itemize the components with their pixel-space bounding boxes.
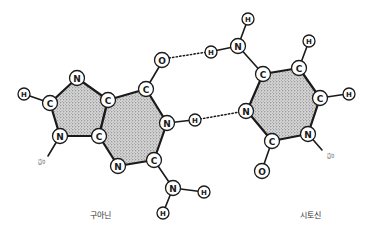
guanine-nitrogen-atom: N	[70, 71, 85, 86]
guanine-caption: 구아닌	[90, 210, 111, 220]
atom-symbol: O	[258, 167, 266, 177]
cytosine-nitrogen-atom: N	[231, 39, 246, 54]
atom-symbol: C	[317, 94, 324, 104]
atom-symbol: C	[296, 64, 303, 74]
atom-symbol: H	[192, 117, 198, 125]
guanine-nitrogen-atom: N	[160, 116, 175, 131]
atom-symbol: C	[269, 137, 276, 147]
guanine-hydrogen-atom: H	[189, 114, 201, 126]
cytosine-hydrogen-atom: H	[303, 35, 315, 47]
atom-symbol: N	[56, 132, 64, 142]
guanine-hydrogen-atom: H	[18, 88, 30, 100]
guanine-imidazole-ring	[50, 78, 108, 136]
cytosine-oxygen-atom: O	[255, 164, 270, 179]
cytosine-caption: 시토신	[300, 211, 321, 220]
cytosine-nitrogen-atom: N	[239, 104, 254, 119]
atom-symbol: N	[73, 74, 81, 84]
guanine-nitrogen-atom: N	[111, 159, 126, 174]
guanine-nitrogen-atom: N	[53, 129, 68, 144]
cytosine-sugar-label: 당	[326, 152, 335, 159]
atom-symbol: N	[242, 107, 250, 117]
guanine-carbon-atom: C	[101, 93, 116, 108]
cytosine-hydrogen-atom: H	[205, 46, 217, 58]
hydrogen-bond	[200, 112, 240, 119]
atom-symbol: C	[151, 156, 158, 166]
cytosine-hydrogen-atom: H	[242, 13, 254, 25]
atom-symbol: N	[169, 184, 177, 194]
atom-symbol: N	[234, 42, 242, 52]
atom-symbol: N	[163, 119, 171, 129]
atom-symbol: C	[105, 96, 112, 106]
guanine-sugar-label: 당	[37, 158, 46, 165]
guanine-hydrogen-atom: H	[198, 186, 210, 198]
atom-symbol: H	[201, 189, 207, 197]
cytosine-carbon-atom: C	[292, 61, 307, 76]
atom-symbol: N	[304, 130, 312, 140]
atom-symbol: C	[47, 99, 54, 109]
guanine-carbon-atom: C	[147, 153, 162, 168]
guanine-nitrogen-atom: N	[166, 181, 181, 196]
guanine-carbon-atom: C	[43, 96, 58, 111]
cytosine-carbon-atom: C	[313, 91, 328, 106]
atom-symbol: H	[245, 16, 251, 24]
atom-symbol: H	[160, 210, 166, 218]
guanine-carbon-atom: C	[139, 82, 154, 97]
atom-symbol: H	[306, 38, 312, 46]
cytosine-carbon-atom: C	[256, 67, 271, 82]
hydrogen-bond	[169, 52, 207, 58]
atom-symbol: C	[260, 70, 267, 80]
cytosine-carbon-atom: C	[265, 134, 280, 149]
atom-symbol: H	[21, 91, 27, 99]
guanine-oxygen-atom: O	[155, 53, 170, 68]
guanine-hydrogen-atom: H	[157, 207, 169, 219]
atom-symbol: N	[114, 162, 122, 172]
cytosine-hydrogen-atom: H	[343, 88, 355, 100]
cytosine-nitrogen-atom: N	[301, 127, 316, 142]
atom-symbol: H	[208, 49, 214, 57]
guanine-carbon-atom: C	[92, 129, 107, 144]
atom-symbol: O	[158, 56, 166, 66]
atom-symbol: C	[143, 85, 150, 95]
atom-symbol: H	[346, 91, 352, 99]
atom-symbol: C	[96, 132, 103, 142]
gc-base-pair-diagram: NCHNCCCONHCNNHH HNHCCHCHNCON 당 당 구아닌 시토신	[0, 0, 375, 234]
